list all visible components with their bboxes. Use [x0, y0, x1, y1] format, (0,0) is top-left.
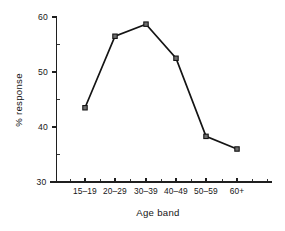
data-point-marker: [113, 34, 117, 38]
x-tick-label-50-59: 50–59: [194, 186, 218, 196]
y-tick-label-40: 40: [38, 122, 48, 132]
x-tick-label-20-29: 20–29: [103, 186, 127, 196]
x-tick-label-15-19: 15–19: [73, 186, 97, 196]
x-axis-title: Age band: [136, 207, 179, 218]
line-chart-plot: 60 50 40 30 15–19 20–29: [0, 0, 285, 231]
y-tick-label-50: 50: [38, 67, 48, 77]
data-point-marker: [235, 147, 239, 151]
data-point-marker: [174, 56, 178, 60]
y-axis-title: % response: [13, 73, 24, 127]
data-point-marker: [83, 106, 87, 110]
data-point-marker: [204, 134, 208, 138]
chart-background: [0, 0, 285, 231]
x-tick-label-60-plus: 60+: [230, 186, 245, 196]
y-tick-label-30: 30: [37, 177, 47, 187]
data-point-marker: [144, 22, 148, 26]
x-tick-label-30-39: 30–39: [134, 186, 158, 196]
x-tick-label-40-49: 40–49: [164, 186, 188, 196]
chart-figure: 60 50 40 30 15–19 20–29: [0, 0, 285, 231]
y-tick-label-60: 60: [38, 12, 48, 22]
